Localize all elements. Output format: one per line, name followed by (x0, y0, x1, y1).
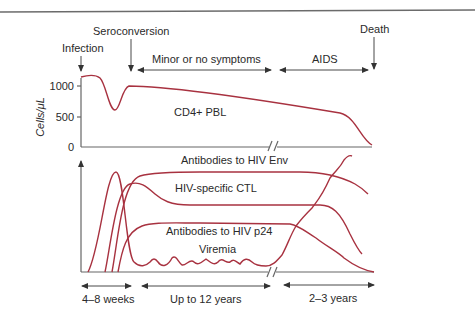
env-label: Antibodies to HIV Env (181, 154, 289, 166)
tick-label-500: 500 (56, 111, 74, 123)
top-rule (0, 10, 475, 12)
top-panel: 1000 500 0 Cells/μL CD4+ PBL (34, 75, 372, 153)
ctl-label: HIV-specific CTL (175, 182, 257, 194)
hiv-course-diagram: Infection Seroconversion Death Minor or … (0, 0, 475, 319)
bottom-panel: Antibodies to HIV Env HIV-specific CTL A… (81, 154, 374, 277)
p24-label: Antibodies to HIV p24 (166, 225, 272, 237)
phase-aids-bottom-label: 2–3 years (309, 292, 358, 304)
tick-label-0: 0 (68, 141, 74, 153)
phase-latent-label: Up to 12 years (170, 293, 242, 305)
death-label: Death (360, 23, 389, 35)
axis-break-icon (268, 141, 272, 151)
cd4-label: CD4+ PBL (174, 106, 226, 118)
axis-break-icon (274, 141, 278, 151)
y-axis-label: Cells/μL (34, 97, 46, 137)
phase-acute-label: 4–8 weeks (82, 293, 135, 305)
phase-aids-label: AIDS (312, 53, 338, 65)
cd4-curve (81, 75, 372, 145)
phase-minor-label: Minor or no symptoms (152, 53, 261, 65)
seroconversion-label: Seroconversion (93, 25, 169, 37)
infection-label: Infection (62, 42, 104, 54)
viremia-label: Viremia (199, 243, 237, 255)
tick-label-1000: 1000 (50, 80, 74, 92)
